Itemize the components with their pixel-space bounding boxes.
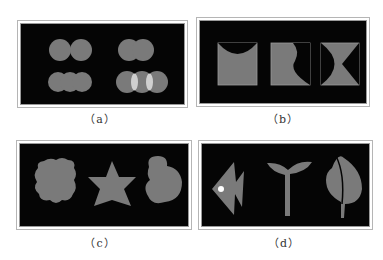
cutout-squares-figure <box>200 21 366 103</box>
fish-shape <box>212 162 244 215</box>
panel-b <box>199 20 367 104</box>
panel-d <box>201 143 370 227</box>
sprout-shape <box>267 162 312 216</box>
caption-c: （c） <box>70 234 130 250</box>
caption-b: （b） <box>253 110 313 126</box>
blob-star-shapes-figure <box>20 144 188 226</box>
cropped-text-line <box>0 0 383 4</box>
leaf-shape <box>326 156 362 218</box>
fish-sprout-leaf-figure <box>202 144 369 226</box>
caption-d: （d） <box>254 234 314 250</box>
fish-eye-icon <box>218 186 224 192</box>
panel-c <box>19 143 189 227</box>
overlapping-circles-figure <box>21 24 184 104</box>
caption-a: （a） <box>70 110 130 126</box>
panel-a <box>20 23 185 105</box>
